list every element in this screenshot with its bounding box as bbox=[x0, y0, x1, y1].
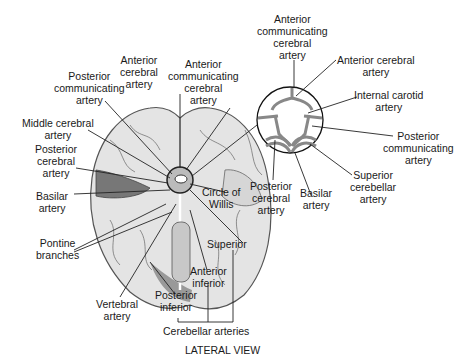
label-anterior-inferior-cerebellar: Anterior inferior bbox=[190, 265, 227, 289]
inset-label-posterior-cerebral: Posterior cerebral artery bbox=[250, 180, 292, 216]
label-posterior-inferior-cerebellar: Posterior inferior bbox=[155, 289, 197, 313]
label-anterior-communicating-artery: Anterior communicating cerebral artery bbox=[168, 58, 239, 106]
figure-caption: LATERAL VIEW bbox=[185, 344, 260, 356]
inset-label-anterior-cerebral: Anterior cerebral artery bbox=[337, 54, 415, 78]
inset-label-internal-carotid: Internal carotid artery bbox=[354, 89, 423, 113]
inset-label-basilar: Basilar artery bbox=[300, 187, 332, 211]
brain-illustration bbox=[91, 107, 271, 308]
label-posterior-cerebral-artery: Posterior cerebral artery bbox=[35, 143, 77, 179]
inset-label-anterior-communicating: Anterior communicating cerebral artery bbox=[257, 13, 328, 61]
label-circle-of-willis: Circle of Willis bbox=[202, 186, 241, 210]
label-pontine-branches: Pontine branches bbox=[36, 237, 79, 261]
label-superior-cerebellar: Superior bbox=[207, 238, 247, 250]
label-anterior-cerebral-artery: Anterior cerebral artery bbox=[120, 54, 158, 90]
label-vertebral-artery: Vertebral artery bbox=[96, 298, 138, 322]
label-basilar-artery: Basilar artery bbox=[36, 190, 68, 214]
circle-of-willis-inset bbox=[257, 87, 323, 153]
label-middle-cerebral-artery: Middle cerebral artery bbox=[22, 117, 94, 141]
label-cerebellar-arteries: Cerebellar arteries bbox=[163, 325, 249, 337]
inset-label-posterior-communicating: Posterior communicating artery bbox=[383, 130, 454, 166]
inset-label-superior-cerebellar: Superior cerebellar artery bbox=[350, 169, 396, 205]
label-posterior-communicating-artery: Posterior communicating artery bbox=[54, 70, 125, 106]
